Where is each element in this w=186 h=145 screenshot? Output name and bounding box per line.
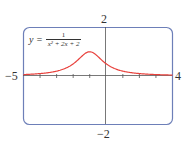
equation-lhs: y = bbox=[29, 34, 43, 45]
y-max-label: 2 bbox=[101, 13, 107, 25]
equation-numerator: 1 bbox=[62, 31, 66, 39]
equation-fraction: 1 x² + 2x + 2 bbox=[46, 31, 82, 48]
equation-denominator: x² + 2x + 2 bbox=[46, 39, 82, 48]
equation-label: y = 1 x² + 2x + 2 bbox=[29, 31, 81, 48]
x-axis-ticks bbox=[40, 74, 156, 78]
x-max-label: 4 bbox=[175, 70, 181, 82]
function-curve bbox=[24, 52, 173, 75]
graph-canvas bbox=[0, 0, 186, 145]
y-min-label: −2 bbox=[97, 128, 110, 140]
x-min-label: −5 bbox=[5, 70, 18, 82]
